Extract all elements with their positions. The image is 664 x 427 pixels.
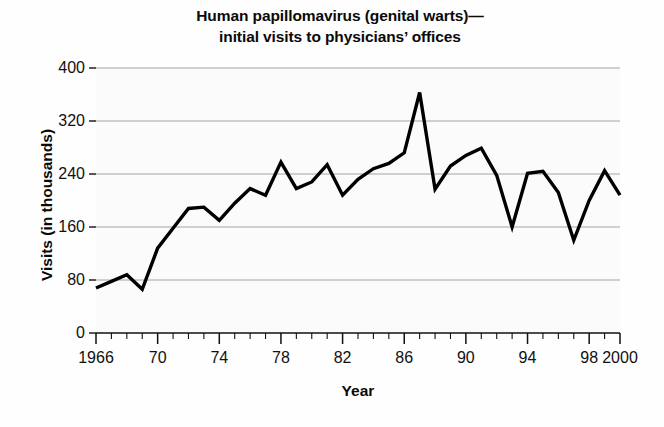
x-tick-label: 78 — [251, 350, 311, 366]
x-tick-label: 94 — [498, 350, 558, 366]
y-tick-label: 400 — [27, 60, 85, 76]
y-tick-label: 320 — [27, 113, 85, 129]
y-tick-label: 240 — [27, 166, 85, 182]
y-tick-label: 80 — [27, 272, 85, 288]
x-tick-label: 2000 — [590, 350, 650, 366]
chart-figure: Human papillomavirus (genital warts)— in… — [0, 0, 664, 427]
x-tick-label: 90 — [436, 350, 496, 366]
y-tick-label: 160 — [27, 219, 85, 235]
y-tick-label: 0 — [27, 325, 85, 341]
y-tick-marks — [89, 68, 96, 333]
x-tick-label: 70 — [128, 350, 188, 366]
x-tick-label: 82 — [313, 350, 373, 366]
x-minor-ticks — [111, 333, 604, 339]
x-tick-label: 74 — [189, 350, 249, 366]
x-tick-label: 1966 — [66, 350, 126, 366]
plot-background — [96, 68, 620, 333]
x-tick-label: 86 — [374, 350, 434, 366]
